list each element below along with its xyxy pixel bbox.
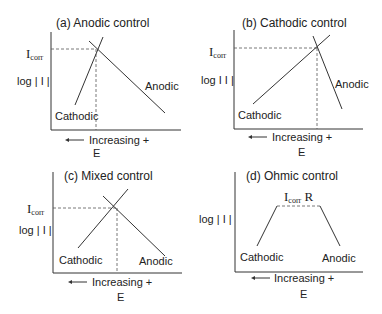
- x-axis-label: E: [117, 291, 124, 303]
- left-arrow-icon: [248, 135, 267, 139]
- cathodic-line: [253, 35, 330, 104]
- y-axis-label: log I I |: [201, 74, 234, 86]
- anodic-line: [103, 196, 165, 256]
- x-arrow-label: Increasing +: [272, 131, 332, 143]
- left-arrow-icon: [65, 138, 84, 142]
- x-axis-label: E: [298, 146, 305, 158]
- y-axis-label: log | I |: [19, 224, 52, 236]
- cathodic-label: Cathodic: [59, 254, 103, 266]
- anodic-line: [89, 41, 165, 113]
- icorr-label: Icorr: [27, 201, 45, 217]
- cathodic-label: Cathodic: [238, 109, 282, 121]
- x-axis-label: E: [93, 147, 100, 159]
- x-axis-label: E: [300, 288, 307, 300]
- anodic-label: Anodic: [322, 252, 356, 264]
- corrosion-control-diagram: (a) Anodic control Icorr log | I | Catho…: [0, 0, 382, 314]
- cathodic-line: [75, 37, 103, 105]
- icorr-r-label: Icorr R: [284, 189, 313, 205]
- panel-b-title: (b) Cathodic control: [242, 16, 347, 30]
- left-arrow-icon: [251, 276, 270, 280]
- anodic-label: Anodic: [335, 78, 369, 90]
- anodic-label: Anodic: [145, 80, 179, 92]
- y-axis-label: log | I |: [17, 75, 50, 87]
- panel-c-title: (c) Mixed control: [64, 169, 153, 183]
- left-arrow-icon: [68, 280, 87, 284]
- cathodic-label: Cathodic: [55, 110, 99, 122]
- cathodic-line: [78, 189, 128, 248]
- panel-b: (b) Cathodic control Icorr log I I | Cat…: [201, 16, 369, 158]
- cathodic-line: [257, 206, 277, 246]
- cathodic-label: Cathodic: [240, 251, 284, 263]
- x-arrow-label: Increasing +: [274, 272, 334, 284]
- panel-d-title: (d) Ohmic control: [246, 169, 338, 183]
- panel-a-title: (a) Anodic control: [56, 16, 149, 30]
- y-axis-label: log | I |: [199, 213, 232, 225]
- anodic-label: Anodic: [139, 255, 173, 267]
- x-arrow-label: Increasing +: [92, 276, 152, 288]
- icorr-label: Icorr: [26, 46, 44, 62]
- panel-d: (d) Ohmic control Icorr R log | I | Cath…: [199, 169, 363, 300]
- icorr-label: Icorr: [209, 44, 227, 60]
- panel-c: (c) Mixed control Icorr log | I | Cathod…: [19, 169, 182, 303]
- panel-a: (a) Anodic control Icorr log | I | Catho…: [17, 16, 181, 159]
- x-arrow-label: Increasing +: [89, 134, 149, 146]
- anodic-line: [320, 206, 340, 246]
